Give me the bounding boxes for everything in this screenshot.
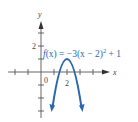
x-axis-label: x bbox=[112, 68, 117, 77]
function-label: f(x) = −3(x − 2)2 + 1 bbox=[43, 47, 121, 60]
y-axis-label: y bbox=[37, 10, 42, 19]
left-arrow-icon bbox=[50, 104, 56, 112]
graph: y x 0 2 2 f(x) = −3(x − 2)2 + 1 bbox=[0, 0, 138, 122]
x-axis-arrow-icon bbox=[102, 70, 110, 75]
y-axis-arrow-icon bbox=[39, 21, 44, 29]
origin-label: 0 bbox=[44, 76, 48, 85]
x-tick-label-2: 2 bbox=[65, 79, 69, 88]
y-tick-label-2: 2 bbox=[32, 42, 36, 51]
right-arrow-icon bbox=[79, 104, 85, 112]
